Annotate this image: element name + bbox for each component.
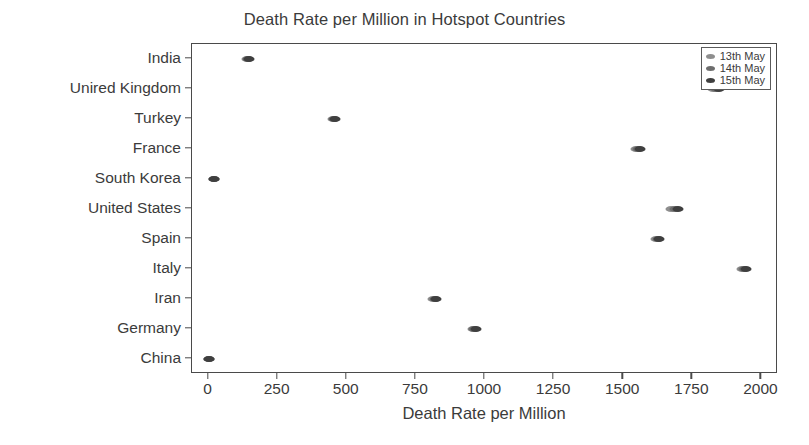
- x-tick-mark: [552, 373, 553, 379]
- x-tick-mark: [691, 373, 692, 379]
- legend-label: 13th May: [720, 50, 765, 62]
- data-point: [470, 326, 481, 332]
- data-point: [634, 146, 645, 152]
- x-tick-mark: [760, 373, 761, 379]
- x-tick-mark: [345, 373, 346, 379]
- x-tick-label: 1000: [467, 380, 501, 398]
- y-tick-label: Germany: [6, 319, 191, 337]
- y-tick-label: Iran: [6, 289, 191, 307]
- legend-marker-icon: [706, 66, 715, 71]
- x-tick-label: 1500: [605, 380, 639, 398]
- y-tick-label: United States: [6, 199, 191, 217]
- x-tick-mark: [414, 373, 415, 379]
- chart-figure: Death Rate per Million in Hotspot Countr…: [0, 0, 809, 445]
- data-point: [740, 266, 751, 272]
- x-tick-label: 0: [203, 380, 212, 398]
- plot-inner: [192, 44, 776, 372]
- data-point: [209, 176, 220, 182]
- x-tick-label: 2000: [743, 380, 777, 398]
- data-point: [654, 236, 665, 242]
- x-tick-label: 1750: [674, 380, 708, 398]
- y-axis: IndiaUnired KingdomTurkeyFranceSouth Kor…: [0, 43, 191, 373]
- data-point: [244, 56, 255, 62]
- plot-area: 13th May14th May15th May: [191, 43, 777, 373]
- legend-item[interactable]: 13th May: [706, 50, 765, 62]
- y-tick-label: Turkey: [6, 109, 191, 127]
- x-tick-mark: [622, 373, 623, 379]
- x-tick-label: 750: [402, 380, 428, 398]
- x-axis: 025050075010001250150017502000: [191, 373, 777, 403]
- legend-marker-icon: [706, 54, 715, 59]
- y-tick-label: India: [6, 49, 191, 67]
- legend-label: 14th May: [720, 62, 765, 74]
- data-point: [431, 296, 442, 302]
- y-tick-label: China: [6, 349, 191, 367]
- x-tick-mark: [207, 373, 208, 379]
- x-tick-mark: [276, 373, 277, 379]
- x-tick-label: 1250: [536, 380, 570, 398]
- x-tick-mark: [483, 373, 484, 379]
- legend-item[interactable]: 15th May: [706, 74, 765, 86]
- data-point: [672, 206, 683, 212]
- x-axis-label: Death Rate per Million: [191, 404, 777, 423]
- data-point: [330, 116, 341, 122]
- y-tick-label: South Korea: [6, 169, 191, 187]
- data-point: [204, 356, 215, 362]
- x-tick-label: 500: [333, 380, 359, 398]
- chart-title: Death Rate per Million in Hotspot Countr…: [0, 10, 809, 29]
- legend-item[interactable]: 14th May: [706, 62, 765, 74]
- y-tick-label: Italy: [6, 259, 191, 277]
- x-tick-label: 250: [264, 380, 290, 398]
- legend-label: 15th May: [720, 74, 765, 86]
- y-tick-label: Unired Kingdom: [6, 79, 191, 97]
- chart-legend[interactable]: 13th May14th May15th May: [701, 47, 771, 90]
- legend-marker-icon: [706, 78, 715, 83]
- y-tick-label: France: [6, 139, 191, 157]
- y-tick-label: Spain: [6, 229, 191, 247]
